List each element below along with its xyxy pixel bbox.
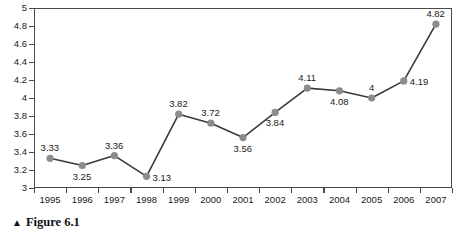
line-series [0, 0, 466, 238]
figure-caption: ▲Figure 6.1 [12, 214, 80, 231]
data-point-label: 4.08 [330, 96, 349, 107]
data-point [272, 109, 279, 116]
data-point-label: 4.11 [298, 72, 316, 83]
data-point [46, 155, 53, 162]
data-point [400, 77, 407, 84]
data-point [336, 87, 343, 94]
data-point-label: 4 [369, 82, 374, 93]
data-point-label: 3.36 [105, 140, 124, 151]
data-point [304, 85, 311, 92]
data-point [368, 94, 375, 101]
data-point-label: 4.19 [410, 76, 429, 87]
data-point-label: 3.72 [201, 107, 220, 118]
data-point [239, 134, 246, 141]
data-point [175, 111, 182, 118]
data-point-label: 3.25 [73, 171, 92, 182]
figure-container: 33.23.43.63.844.24.44.64.85 199519961997… [0, 0, 466, 238]
data-point [79, 162, 86, 169]
data-point [432, 21, 439, 28]
data-point [111, 152, 118, 159]
data-point [143, 173, 150, 180]
data-point-label: 3.13 [153, 172, 172, 183]
data-point-label: 3.82 [169, 98, 188, 109]
data-point [207, 120, 214, 127]
data-point-label: 3.33 [41, 142, 60, 153]
caption-text: Figure 6.1 [26, 215, 80, 229]
data-point-label: 3.84 [266, 117, 285, 128]
caption-triangle-icon: ▲ [12, 215, 22, 231]
data-point-label: 3.56 [234, 143, 253, 154]
data-point-label: 4.82 [426, 8, 445, 19]
